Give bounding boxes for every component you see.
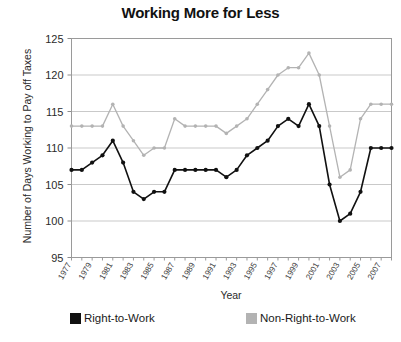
data-point: [348, 212, 352, 216]
data-point: [266, 139, 270, 143]
data-point: [214, 168, 218, 172]
data-point: [307, 51, 311, 55]
data-point: [70, 124, 74, 128]
legend-swatch-right-to-work: [70, 313, 81, 324]
data-point: [204, 124, 208, 128]
legend-label-right-to-work: Right-to-Work: [84, 312, 155, 324]
x-tick-label: 1999: [283, 261, 300, 282]
data-point: [183, 168, 187, 172]
x-tick-label: 1981: [98, 261, 115, 282]
y-tick-label: 110: [46, 142, 64, 154]
x-axis-ticks: 1977197919811983198519871989199119931995…: [56, 258, 391, 282]
gridlines: [72, 75, 392, 221]
data-point: [101, 124, 105, 128]
legend-label-non-right-to-work: Non-Right-to-Work: [260, 312, 356, 324]
data-series-layer: [69, 51, 393, 223]
data-point: [297, 66, 301, 70]
legend-item-non-right-to-work: Non-Right-to-Work: [246, 312, 356, 324]
data-point: [204, 168, 208, 172]
x-tick-label: 1995: [242, 261, 259, 282]
data-point: [173, 117, 177, 121]
data-point: [111, 102, 115, 106]
data-point: [245, 153, 249, 157]
data-point: [173, 168, 177, 172]
data-point: [69, 168, 73, 172]
legend-swatch-non-right-to-work: [246, 313, 257, 324]
data-point: [286, 117, 290, 121]
data-point: [235, 168, 239, 172]
data-point: [121, 161, 125, 165]
data-point: [286, 66, 290, 70]
series-line: [72, 53, 392, 177]
data-point: [142, 197, 146, 201]
data-point: [256, 102, 260, 106]
x-tick-label: 1983: [118, 261, 135, 282]
data-point: [389, 146, 393, 150]
data-point: [131, 190, 135, 194]
y-tick-label: 125: [45, 33, 63, 45]
data-point: [90, 124, 94, 128]
data-point: [80, 124, 84, 128]
y-tick-label: 120: [45, 69, 63, 81]
data-point: [358, 190, 362, 194]
data-point: [90, 161, 94, 165]
data-point: [121, 124, 125, 128]
x-tick-label: 1985: [139, 261, 156, 282]
data-point: [348, 168, 352, 172]
data-point: [224, 175, 228, 179]
chart-container: Working More for Less Number of Days Wor…: [0, 0, 401, 342]
data-point: [379, 146, 383, 150]
data-point: [111, 139, 115, 143]
data-point: [307, 102, 311, 106]
data-point: [296, 124, 300, 128]
data-point: [390, 102, 394, 106]
data-point: [338, 219, 342, 223]
y-tick-label: 115: [46, 106, 64, 118]
data-point: [255, 146, 259, 150]
data-point: [162, 190, 166, 194]
data-point: [183, 124, 187, 128]
legend-item-right-to-work: Right-to-Work: [70, 312, 155, 324]
data-point: [328, 124, 332, 128]
data-point: [338, 175, 342, 179]
data-point: [245, 117, 249, 121]
data-point: [369, 102, 373, 106]
x-tick-label: 1979: [77, 261, 94, 282]
x-tick-label: 1977: [56, 261, 73, 282]
x-tick-label: 2003: [325, 261, 342, 282]
data-point: [194, 124, 198, 128]
y-axis-ticks: 95100105110115120125: [45, 33, 71, 264]
data-point: [317, 73, 321, 77]
x-tick-label: 2001: [304, 261, 321, 282]
y-tick-label: 105: [45, 179, 63, 191]
x-tick-label: 2005: [345, 261, 362, 282]
data-point: [152, 146, 156, 150]
data-point: [163, 146, 167, 150]
x-tick-label: 1997: [263, 261, 280, 282]
x-tick-label: 1991: [201, 261, 218, 282]
y-tick-label: 95: [51, 252, 63, 264]
data-point: [266, 88, 270, 92]
data-point: [142, 154, 146, 158]
data-point: [369, 146, 373, 150]
data-point: [132, 139, 136, 143]
x-tick-label: 1987: [160, 261, 177, 282]
chart-legend: Right-to-Work Non-Right-to-Work: [0, 312, 401, 332]
data-point: [152, 190, 156, 194]
data-point: [379, 102, 383, 106]
x-tick-label: 1989: [180, 261, 197, 282]
data-point: [276, 73, 280, 77]
data-point: [276, 124, 280, 128]
data-point: [327, 182, 331, 186]
x-tick-label: 2007: [366, 261, 383, 282]
y-tick-label: 100: [45, 215, 63, 227]
data-point: [100, 153, 104, 157]
x-axis-title: Year: [70, 289, 392, 301]
data-point: [225, 132, 229, 136]
data-point: [235, 124, 239, 128]
data-point: [359, 117, 363, 121]
series-line: [72, 104, 392, 221]
x-tick-label: 1993: [221, 261, 238, 282]
data-point: [214, 124, 218, 128]
data-point: [317, 124, 321, 128]
